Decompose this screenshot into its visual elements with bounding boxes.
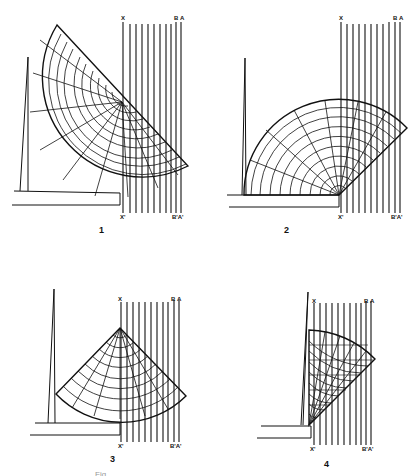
panel-2-number: 2 bbox=[284, 226, 289, 235]
diagram-canvas bbox=[0, 0, 412, 476]
panel-1-parallel-lines bbox=[123, 22, 181, 213]
panel-3-label-b: B bbox=[171, 296, 175, 302]
figure-caption: Fig. . . . . . . . . . . . . . . . . . .… bbox=[95, 470, 335, 476]
panel-4-label-a: A bbox=[370, 298, 374, 304]
panel-3-label-ba-prime: B'A' bbox=[170, 443, 182, 449]
panel-3-parallel-lines bbox=[121, 300, 179, 442]
panel-4-label-x-prime: X' bbox=[310, 446, 315, 452]
panel-2-label-ba-prime: B'A' bbox=[391, 214, 403, 220]
panel-1-label-ba-prime: B'A' bbox=[172, 214, 184, 220]
panel-2-drawing bbox=[227, 22, 407, 213]
panel-4-label-ba-prime: B'A' bbox=[362, 446, 374, 452]
panel-3-label-x: X bbox=[118, 296, 122, 302]
panel-4-drawing bbox=[257, 292, 375, 445]
panel-2-label-x-prime: X' bbox=[338, 214, 343, 220]
panel-1-label-b: B bbox=[174, 15, 178, 21]
panel-3-drawing bbox=[30, 289, 186, 442]
panel-4-label-x: X bbox=[312, 298, 316, 304]
panel-4-label-b: B bbox=[364, 298, 368, 304]
panel-2-label-x: X bbox=[339, 15, 343, 21]
panel-1-label-x: X bbox=[121, 15, 125, 21]
panel-3-label-x-prime: X' bbox=[118, 443, 123, 449]
panel-3-number: 3 bbox=[110, 455, 115, 464]
panel-2-label-b: B bbox=[393, 15, 397, 21]
panel-1-number: 1 bbox=[99, 226, 104, 235]
panel-3-label-a: A bbox=[177, 296, 181, 302]
panel-1-label-x-prime: X' bbox=[120, 214, 125, 220]
panel-1-label-a: A bbox=[180, 15, 184, 21]
panel-4-number: 4 bbox=[324, 460, 329, 469]
panel-1-drawing bbox=[12, 22, 188, 213]
panel-2-label-a: A bbox=[399, 15, 403, 21]
